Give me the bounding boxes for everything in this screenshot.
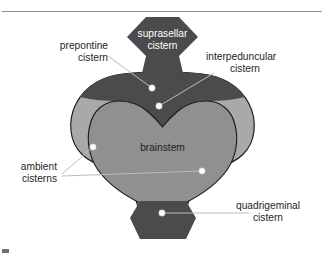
prepontine-label-line2: cistern <box>78 52 108 63</box>
ambient-left-dot <box>90 144 96 150</box>
quadrigeminal-cistern-region[interactable] <box>130 201 196 239</box>
ambient-label-line2: cisterns <box>22 173 57 184</box>
figure-root: suprasellar cistern prepontine cistern i… <box>0 0 325 256</box>
corner-mark <box>2 249 9 253</box>
interpeduncular-label-line1: interpeduncular <box>206 51 277 62</box>
prepontine-dot <box>149 85 155 91</box>
cisterns-diagram: suprasellar cistern prepontine cistern i… <box>0 0 325 256</box>
brainstem-label: brainstem <box>140 142 185 153</box>
ambient-label-line1: ambient <box>21 161 57 172</box>
quadrigeminal-label-line2: cistern <box>253 212 283 223</box>
ambient-cisterns-label: ambient cisterns <box>21 161 57 184</box>
suprasellar-label-line1: suprasellar <box>138 28 188 39</box>
interpeduncular-label-line2: cistern <box>230 63 260 74</box>
suprasellar-neck <box>142 56 183 73</box>
interpeduncular-dot <box>156 103 162 109</box>
suprasellar-label-line2: cistern <box>147 40 177 51</box>
ambient-right-dot <box>199 168 205 174</box>
prepontine-label-line1: prepontine <box>60 40 108 51</box>
quadrigeminal-dot <box>159 210 165 216</box>
quadrigeminal-label-line1: quadrigeminal <box>236 200 300 211</box>
